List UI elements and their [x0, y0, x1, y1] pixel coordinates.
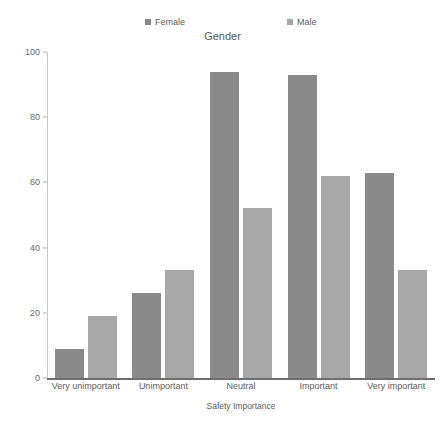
legend-label-male: Male [297, 17, 317, 27]
bar-group [47, 52, 125, 378]
bar-male[interactable] [243, 208, 272, 378]
x-axis-tick-labels: Very unimportantUnimportantNeutralImport… [47, 381, 435, 392]
x-axis-tick-label: Unimportant [125, 381, 203, 392]
bar-female[interactable] [132, 293, 161, 378]
bar-group [280, 52, 358, 378]
bar-group [202, 52, 280, 378]
y-axis-tick-label: 60 [30, 178, 40, 187]
legend-label-female: Female [155, 17, 185, 27]
bar-chart: Female Male Gender 020406080100 Very uni… [0, 0, 445, 432]
x-axis-tick-label: Important [280, 381, 358, 392]
bar-female[interactable] [210, 72, 239, 378]
bar-female[interactable] [288, 75, 317, 378]
plot-area: 020406080100 [47, 52, 435, 378]
y-axis-tick-label: 40 [30, 243, 40, 252]
y-axis-tick-label: 0 [35, 374, 40, 383]
bar-male[interactable] [165, 270, 194, 378]
y-axis-tick-label: 100 [25, 48, 40, 57]
bar-groups [47, 52, 435, 378]
chart-title: Gender [0, 30, 445, 42]
x-axis-tick-label: Very important [357, 381, 435, 392]
x-axis-tick-label: Neutral [202, 381, 280, 392]
bar-male[interactable] [398, 270, 427, 378]
y-axis-tick-label: 80 [30, 113, 40, 122]
bar-male[interactable] [321, 176, 350, 378]
bar-group [125, 52, 203, 378]
bar-male[interactable] [88, 316, 117, 378]
x-axis-line [47, 378, 435, 380]
y-axis-tick-label: 20 [30, 308, 40, 317]
legend-swatch-female-icon [145, 19, 151, 25]
legend-item-female[interactable]: Female [145, 17, 185, 27]
legend-swatch-male-icon [287, 19, 293, 25]
legend-item-male[interactable]: Male [287, 17, 317, 27]
x-axis-tick-label: Very unimportant [47, 381, 125, 392]
bar-group [357, 52, 435, 378]
bar-female[interactable] [55, 349, 84, 378]
bar-female[interactable] [365, 173, 394, 378]
x-axis-title: Safety Importance [47, 401, 435, 411]
